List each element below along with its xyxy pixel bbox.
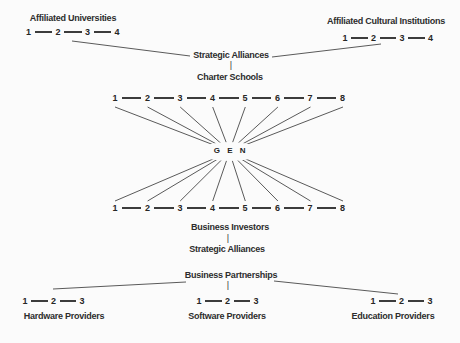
- node-row-lower-network: 12345678: [112, 203, 347, 213]
- label-strategic-alliances-bottom: Strategic Alliances: [189, 244, 264, 254]
- node-row-software-providers: 123: [196, 296, 259, 306]
- label-strategic-alliances-top: Strategic Alliances: [193, 50, 268, 60]
- connector-partnerships-to-hardware: [53, 282, 186, 289]
- node-row-affiliated-universities: 1234: [26, 27, 121, 37]
- node-number: 3: [177, 93, 184, 103]
- node-connector-dash: [380, 37, 397, 39]
- connector-partnerships-to-education: [274, 281, 398, 294]
- node-number: 2: [144, 93, 151, 103]
- node-number: 5: [242, 93, 249, 103]
- node-number: 2: [51, 296, 57, 306]
- node-number: 2: [55, 27, 61, 37]
- node-connector-dash: [31, 300, 48, 302]
- node-number: 7: [307, 93, 314, 103]
- label-business-investors: Business Investors: [191, 222, 269, 232]
- node-connector-dash: [252, 207, 272, 209]
- node-number: 5: [242, 203, 249, 213]
- separator-partnerships-hub: |: [227, 281, 229, 290]
- node-number: 2: [399, 296, 405, 306]
- node-number: 1: [26, 27, 32, 37]
- node-connector-dash: [284, 207, 304, 209]
- connector-universities-to-alliances: [72, 41, 190, 56]
- node-number: 7: [307, 203, 314, 213]
- node-number: 3: [253, 296, 259, 306]
- node-connector-dash: [35, 31, 53, 33]
- node-connector-dash: [219, 97, 239, 99]
- node-connector-dash: [122, 97, 142, 99]
- label-affiliated-universities: Affiliated Universities: [30, 13, 116, 23]
- node-number: 1: [370, 296, 376, 306]
- node-number: 3: [427, 296, 433, 306]
- label-software-providers: Software Providers: [188, 311, 266, 321]
- separator-upper-hub: |: [230, 61, 232, 70]
- node-connector-dash: [219, 207, 239, 209]
- node-connector-dash: [187, 97, 207, 99]
- node-connector-dash: [94, 31, 112, 33]
- node-number: 1: [112, 203, 119, 213]
- node-number: 6: [274, 203, 281, 213]
- node-connector-dash: [234, 300, 251, 302]
- node-connector-dash: [252, 97, 272, 99]
- node-connector-dash: [379, 300, 396, 302]
- node-connector-dash: [284, 97, 304, 99]
- node-number: 1: [112, 93, 119, 103]
- node-number: 3: [177, 203, 184, 213]
- node-number: 3: [79, 296, 85, 306]
- node-connector-dash: [408, 300, 425, 302]
- node-number: 1: [22, 296, 28, 306]
- gen-center-label: G E N: [212, 146, 248, 156]
- label-business-partnerships: Business Partnerships: [185, 270, 277, 280]
- separator-lower-hub: |: [227, 234, 229, 243]
- node-number: 1: [342, 33, 348, 43]
- node-row-affiliated-cultural-institutions: 1234: [342, 33, 434, 43]
- node-number: 3: [399, 33, 405, 43]
- label-education-providers: Education Providers: [352, 311, 435, 321]
- node-number: 2: [144, 203, 151, 213]
- node-number: 4: [209, 93, 216, 103]
- node-row-upper-network: 12345678: [112, 93, 347, 103]
- node-number: 4: [209, 203, 216, 213]
- connector-alliances-to-cultural: [272, 44, 381, 57]
- node-number: 8: [339, 203, 346, 213]
- node-connector-dash: [60, 300, 77, 302]
- node-number: 8: [339, 93, 346, 103]
- diagram-canvas: Affiliated Universities 1234 Affiliated …: [0, 0, 460, 343]
- node-row-education-providers: 123: [370, 296, 433, 306]
- node-number: 2: [225, 296, 231, 306]
- node-connector-dash: [154, 97, 174, 99]
- node-number: 1: [196, 296, 202, 306]
- label-hardware-providers: Hardware Providers: [24, 311, 105, 321]
- node-connector-dash: [408, 37, 425, 39]
- node-number: 6: [274, 93, 281, 103]
- node-connector-dash: [154, 207, 174, 209]
- node-number: 3: [85, 27, 91, 37]
- node-connector-dash: [64, 31, 82, 33]
- node-connector-dash: [317, 97, 337, 99]
- label-affiliated-cultural-institutions: Affiliated Cultural Institutions: [327, 16, 445, 26]
- node-connector-dash: [205, 300, 222, 302]
- label-charter-schools: Charter Schools: [197, 72, 263, 82]
- node-row-hardware-providers: 123: [22, 296, 85, 306]
- node-number: 4: [114, 27, 120, 37]
- node-number: 2: [371, 33, 377, 43]
- node-connector-dash: [187, 207, 207, 209]
- node-number: 4: [428, 33, 434, 43]
- node-connector-dash: [122, 207, 142, 209]
- node-connector-dash: [317, 207, 337, 209]
- node-connector-dash: [351, 37, 368, 39]
